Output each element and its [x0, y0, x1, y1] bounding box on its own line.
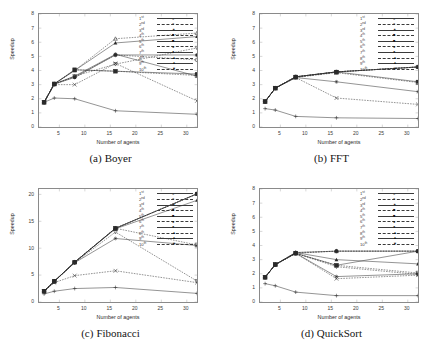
y-tick-label: 6 [239, 39, 255, 45]
y-tick-label: 2 [239, 270, 255, 276]
x-tick-label: 15 [101, 130, 117, 136]
y-axis-label: Speedup [230, 194, 236, 254]
x-tick-label: 5 [50, 305, 66, 311]
caption-text: FFT [330, 152, 349, 164]
plot-area-fft: 1st+2nd×3rd✶4th■5th■6th●7th●8th▲9th▲10th… [259, 13, 419, 128]
panel-caption-fibonacci: (c)Fibonacci [0, 327, 221, 339]
plot-svg-quicksort [260, 189, 418, 302]
x-tick-label: 5 [271, 305, 287, 311]
y-tick-label: 20 [18, 191, 34, 197]
y-tick-label: 5 [239, 228, 255, 234]
x-tick-label: 30 [178, 130, 194, 136]
y-tick-label: 8 [18, 10, 34, 16]
y-tick-label: 0 [239, 298, 255, 304]
x-tick-label: 10 [76, 305, 92, 311]
panel-fft: Speedup 1st+2nd×3rd✶4th■5th■6th●7th●8th▲… [221, 0, 442, 175]
panel-caption-fft: (b)FFT [221, 152, 442, 164]
panel-boyer: Speedup 1st+2nd×3rd✶4th■5th■6th●7th●8th▲… [0, 0, 221, 175]
x-tick-label: 5 [271, 130, 287, 136]
y-tick-label: 1 [239, 109, 255, 115]
x-axis-label: Number of agents [259, 314, 419, 320]
caption-index: (c) [81, 327, 93, 339]
y-tick-label: 7 [239, 25, 255, 31]
y-tick-label: 3 [239, 81, 255, 87]
x-tick-label: 30 [178, 305, 194, 311]
y-tick-label: 0 [18, 298, 34, 304]
y-tick-label: 6 [239, 214, 255, 220]
y-tick-label: 3 [18, 81, 34, 87]
y-tick-label: 4 [239, 67, 255, 73]
y-tick-label: 15 [18, 218, 34, 224]
x-axis-label: Number of agents [38, 314, 198, 320]
caption-text: Fibonacci [96, 327, 139, 339]
x-tick-label: 10 [297, 305, 313, 311]
y-axis-label: Speedup [9, 19, 15, 79]
caption-text: Boyer [105, 152, 132, 164]
y-tick-label: 5 [18, 53, 34, 59]
plot-area-fibonacci: 1st+2nd×3rd✶4th■5th■6th●7th●8th▲9th▲10th… [38, 188, 198, 303]
x-tick-label: 15 [322, 130, 338, 136]
x-tick-label: 10 [297, 130, 313, 136]
y-tick-label: 4 [18, 67, 34, 73]
y-tick-label: 7 [18, 25, 34, 31]
y-tick-label: 0 [18, 123, 34, 129]
x-tick-label: 25 [373, 305, 389, 311]
panel-caption-boyer: (a)Boyer [0, 152, 221, 164]
y-tick-label: 1 [18, 109, 34, 115]
y-tick-label: 5 [18, 271, 34, 277]
caption-index: (b) [314, 152, 327, 164]
y-tick-label: 8 [239, 10, 255, 16]
y-tick-label: 4 [239, 242, 255, 248]
x-tick-label: 10 [76, 130, 92, 136]
x-tick-label: 30 [399, 305, 415, 311]
x-tick-label: 20 [127, 130, 143, 136]
plot-svg-fft [260, 14, 418, 127]
y-tick-label: 6 [18, 39, 34, 45]
y-axis-label: Speedup [230, 19, 236, 79]
x-tick-label: 20 [348, 130, 364, 136]
panel-quicksort: Speedup 1st+2nd×3rd✶4th■5th■6th●7th●8th▲… [221, 175, 442, 350]
y-tick-label: 3 [239, 256, 255, 262]
x-tick-label: 20 [127, 305, 143, 311]
x-tick-label: 15 [322, 305, 338, 311]
x-tick-label: 25 [152, 305, 168, 311]
plot-svg-fibonacci [39, 189, 197, 302]
y-tick-label: 5 [239, 53, 255, 59]
plot-area-quicksort: 1st+2nd×3rd✶4th■5th■6th●7th●8th▲9th▲10th… [259, 188, 419, 303]
y-tick-label: 2 [239, 95, 255, 101]
x-tick-label: 15 [101, 305, 117, 311]
x-tick-label: 20 [348, 305, 364, 311]
figure-grid: Speedup 1st+2nd×3rd✶4th■5th■6th●7th●8th▲… [0, 0, 442, 350]
caption-index: (a) [89, 152, 101, 164]
plot-svg-boyer [39, 14, 197, 127]
y-axis-label: Speedup [9, 194, 15, 254]
x-tick-label: 25 [373, 130, 389, 136]
caption-index: (d) [301, 327, 314, 339]
x-axis-label: Number of agents [38, 139, 198, 145]
x-tick-label: 25 [152, 130, 168, 136]
panel-caption-quicksort: (d)QuickSort [221, 327, 442, 339]
y-tick-label: 1 [239, 284, 255, 290]
x-tick-label: 5 [50, 130, 66, 136]
plot-area-boyer: 1st+2nd×3rd✶4th■5th■6th●7th●8th▲9th▲10th… [38, 13, 198, 128]
y-tick-label: 7 [239, 200, 255, 206]
x-tick-label: 30 [399, 130, 415, 136]
y-tick-label: 0 [239, 123, 255, 129]
x-axis-label: Number of agents [259, 139, 419, 145]
caption-text: QuickSort [317, 327, 362, 339]
panel-fibonacci: Speedup 1st+2nd×3rd✶4th■5th■6th●7th●8th▲… [0, 175, 221, 350]
y-tick-label: 8 [239, 185, 255, 191]
y-tick-label: 10 [18, 245, 34, 251]
y-tick-label: 2 [18, 95, 34, 101]
